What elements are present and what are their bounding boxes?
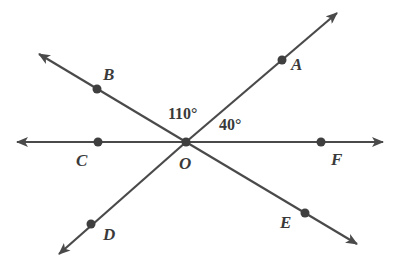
point-label-O: O <box>179 155 191 172</box>
point-F-dot <box>317 138 326 147</box>
point-label-B: B <box>103 66 114 83</box>
point-label-D: D <box>103 226 115 243</box>
point-D-dot <box>87 220 96 229</box>
point-C-dot <box>94 138 103 147</box>
intersecting-lines-diagram: B A C O F D E 110° 40° <box>0 0 402 269</box>
point-E-dot <box>301 209 310 218</box>
angle-label-BOA: 110° <box>168 106 198 122</box>
point-label-E: E <box>280 214 291 231</box>
lines-canvas <box>0 0 402 269</box>
point-B-dot <box>93 85 102 94</box>
line-BE <box>39 54 357 244</box>
line-DA <box>59 13 337 254</box>
point-A-dot <box>278 56 287 65</box>
angle-label-AOF: 40° <box>219 117 241 133</box>
point-label-F: F <box>331 151 342 168</box>
point-label-C: C <box>76 152 87 169</box>
point-label-A: A <box>291 56 302 73</box>
point-O-dot <box>182 138 191 147</box>
